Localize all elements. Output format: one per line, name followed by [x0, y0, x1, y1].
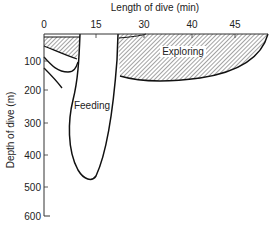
y-tick-label: 600: [24, 211, 41, 222]
exploring-region: [118, 34, 268, 81]
short-dive-curve: [44, 57, 78, 72]
y-tick-label: 500: [24, 182, 41, 193]
x-tick-label: 0: [41, 19, 47, 30]
exploring-label: Exploring: [162, 46, 204, 57]
feeding-label: Feeding: [74, 100, 110, 111]
x-tick-label: 40: [186, 19, 198, 30]
y-tick-label: 200: [24, 85, 41, 96]
y-tick-label: 400: [24, 150, 41, 161]
x-tick-label: 45: [229, 19, 241, 30]
x-axis-title: Length of dive (min): [111, 2, 199, 13]
x-tick-label: 15: [90, 19, 102, 30]
y-tick-label: 100: [24, 56, 41, 67]
short-dive-curve: [44, 68, 62, 88]
y-tick-label: 300: [24, 118, 41, 129]
x-tick-label: 30: [138, 19, 150, 30]
y-axis-title: Depth of dive (m): [5, 92, 16, 169]
dive-chart: Length of dive (min) Depth of dive (m) 0…: [0, 0, 274, 233]
